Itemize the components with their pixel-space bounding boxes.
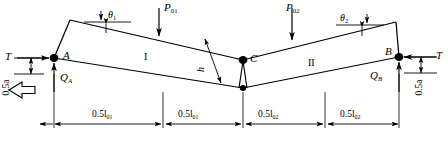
node-label-b: B (385, 46, 392, 57)
theta1-sub: 1 (113, 14, 116, 21)
offset-label-right: 0.5a (415, 79, 425, 95)
dim-1-base: 0.5l (92, 109, 107, 119)
sag-height-label: h (196, 67, 206, 72)
tension-label-left: T (5, 51, 11, 62)
dimension-label-2: 0.5l01 (178, 110, 198, 121)
sag-dimension-line (205, 39, 221, 83)
dim-3-base: 0.5l (258, 109, 273, 119)
top-chord-left (70, 20, 243, 60)
reaction-qb-base: Q (370, 69, 378, 81)
reaction-qa-base: Q (60, 71, 68, 83)
dimension-label-3: 0.5l02 (258, 110, 278, 121)
reaction-label-qb: QB (370, 70, 382, 83)
offset-right-marks (404, 57, 437, 73)
reaction-qb-sub: B (378, 75, 382, 82)
load-label-p02: P02 (286, 2, 300, 15)
top-chord-right (243, 22, 396, 60)
load-p01-sub: 01 (171, 7, 178, 14)
node-c-lower-marker (240, 85, 246, 91)
offset-label-left: 0.5a (2, 79, 12, 95)
node-b-marker (395, 53, 404, 61)
node-a-marker (50, 54, 59, 62)
dim-4-sub: 02 (355, 114, 361, 120)
angle-label-theta2: θ2 (340, 13, 348, 24)
load-p02-sub: 02 (293, 7, 300, 14)
reaction-qa-sub: A (68, 77, 72, 84)
theta2-sub: 2 (345, 17, 348, 24)
dim-3-sub: 02 (273, 114, 279, 120)
direction-arrow-outline (9, 82, 35, 98)
dim-2-base: 0.5l (178, 109, 193, 119)
bottom-chord-left (54, 58, 243, 88)
offset-left-marks (14, 58, 44, 74)
node-c-web (239, 61, 247, 88)
node-label-a: A (63, 50, 70, 61)
reaction-label-qa: QA (60, 72, 72, 85)
angle-label-theta1: θ1 (108, 10, 116, 21)
direction-arrow-shape (9, 82, 35, 98)
engineering-diagram: A C B I II P01 P02 T T QA QB θ1 θ2 h 0.5… (0, 0, 448, 144)
right-riser (396, 22, 399, 57)
segment-label-2: II (308, 58, 315, 68)
load-p01-base: P (164, 1, 171, 13)
tension-label-right: T (436, 50, 442, 61)
load-arrows (159, 8, 292, 40)
dimension-label-4: 0.5l02 (340, 110, 360, 121)
dim-2-sub: 01 (193, 114, 199, 120)
node-c-web-right (243, 61, 247, 88)
dimension-label-1: 0.5l01 (92, 110, 112, 121)
node-c-web-left (239, 61, 243, 88)
tension-arrows (17, 57, 436, 58)
sag-dimension (205, 39, 221, 83)
load-label-p01: P01 (164, 2, 178, 15)
node-label-c: C (250, 53, 257, 64)
load-p02-base: P (286, 1, 293, 13)
dim-1-sub: 01 (107, 114, 113, 120)
dim-4-base: 0.5l (340, 109, 355, 119)
segment-label-1: I (144, 52, 147, 62)
